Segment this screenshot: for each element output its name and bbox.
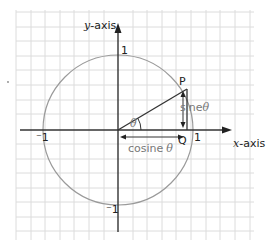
y-tick-pos-1: 1	[121, 44, 128, 57]
unit-circle-diagram: y-axis x-axis 1 ⁻1 ⁻1 1 P Q θ sineθ cosi…	[0, 0, 274, 248]
x-axis-arrow-icon	[222, 127, 232, 134]
sine-arrow-down-icon	[181, 122, 186, 128]
point-p-label: P	[179, 75, 186, 88]
point-q-label: Q	[178, 134, 187, 147]
stray-mark	[7, 81, 9, 83]
theta-label: θ	[130, 117, 137, 130]
angle-arc	[138, 118, 141, 130]
cosine-label: cosineθ	[128, 142, 173, 155]
radius-line	[118, 89, 187, 130]
x-tick-neg-1: ⁻1	[36, 131, 49, 144]
x-axis-label: x-axis	[233, 137, 265, 150]
x-tick-pos-1: 1	[194, 131, 201, 144]
cosine-arrow-left-icon	[120, 135, 126, 140]
y-axis-label: y-axis	[83, 19, 116, 32]
sine-label: sineθ	[180, 101, 210, 114]
y-tick-neg-1: ⁻1	[106, 203, 119, 216]
